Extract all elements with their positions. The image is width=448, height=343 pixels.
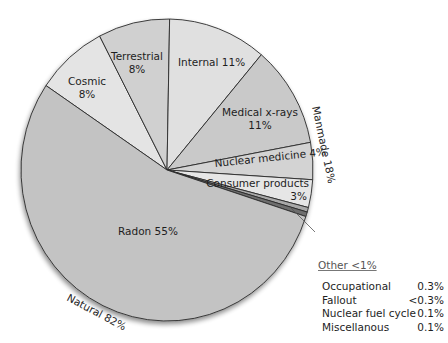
legend-value: 0.3% [417, 280, 444, 294]
legend-value: 0.1% [417, 321, 444, 335]
label-cosmic-pct: 8% [79, 88, 96, 100]
label-manmade-group: Manmade 18% [310, 105, 338, 184]
legend-value: 0.1% [417, 307, 444, 321]
label-radon: Radon 55% [118, 225, 178, 237]
label-consumer: Consumer products [206, 177, 309, 189]
legend-row-fallout: Fallout <0.3% [322, 294, 444, 308]
legend-row-miscellanous: Miscellanous 0.1% [322, 321, 444, 335]
legend-label: Occupational [322, 280, 391, 294]
legend-title-other: Other <1% [318, 259, 444, 271]
label-medical-pct: 11% [248, 119, 271, 131]
label-terrestrial-pct: 8% [129, 63, 146, 75]
legend-value: <0.3% [409, 294, 444, 308]
legend-label: Nuclear fuel cycle [322, 307, 416, 321]
pie-slices [21, 19, 313, 321]
other-breakdown-legend: Other <1% Occupational 0.3% Fallout <0.3… [322, 259, 444, 334]
label-terrestrial: Terrestrial [110, 50, 163, 62]
label-medical: Medical x-rays [222, 106, 298, 118]
legend-row-nuclear-fuel-cycle: Nuclear fuel cycle 0.1% [322, 307, 444, 321]
legend-label: Miscellanous [322, 321, 389, 335]
label-consumer-pct: 3% [290, 190, 307, 202]
label-internal: Internal 11% [178, 56, 245, 68]
label-cosmic: Cosmic [68, 75, 106, 87]
legend-row-occupational: Occupational 0.3% [322, 280, 444, 294]
legend-label: Fallout [322, 294, 357, 308]
